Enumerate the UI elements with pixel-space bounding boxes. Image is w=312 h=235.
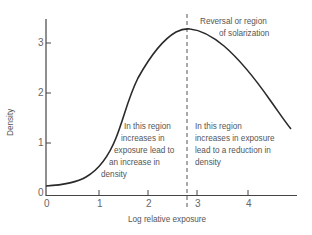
x-tick-label-1: 1 [97,199,103,209]
annotation-left-line-3: exposure lead to [114,144,174,156]
annotation-left-line-1: In this region [124,120,171,132]
y-axis-label: Density [4,109,15,136]
characteristic-curve [46,29,291,186]
x-tick-label-0: 0 [44,199,50,209]
annotation-right-line-2: increases in exposure [195,132,274,144]
annotation-reversal-line-2: of solarization [219,27,269,39]
annotation-left-line-4: an increase in [109,156,160,168]
x-axis-label: Log relative exposure [128,213,206,224]
x-tick-label-2: 2 [146,199,152,209]
y-tick-label-0: 0 [38,188,44,198]
annotation-left-line-2: increases in [121,132,165,144]
annotation-left-line-5: density [101,168,127,180]
annotation-right-line-4: density [195,156,221,168]
x-tick-label-4: 4 [246,199,252,209]
annotation-right-line-1: In this region [195,120,242,132]
annotation-reversal-line-1: Reversal or region [200,15,267,27]
y-tick-label-3: 3 [38,38,44,48]
y-tick-label-1: 1 [38,138,44,148]
x-tick-label-3: 3 [195,199,201,209]
y-tick-label-2: 2 [38,88,44,98]
annotation-right-line-3: lead to a reduction in [195,144,271,156]
